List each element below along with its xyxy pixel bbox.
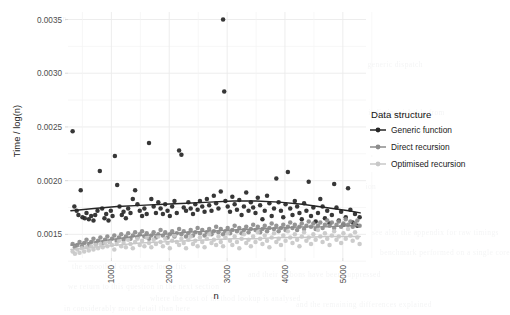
data-point: [225, 204, 230, 209]
data-point: [110, 214, 115, 219]
data-point: [142, 206, 147, 211]
data-point: [91, 218, 96, 223]
data-point: [138, 208, 143, 213]
data-point: [325, 208, 330, 213]
legend-key-point: [376, 145, 381, 150]
data-point: [202, 245, 207, 250]
data-point: [128, 211, 133, 216]
data-point: [212, 193, 217, 198]
data-point: [221, 17, 226, 22]
y-tick-label: 0.0025: [37, 123, 62, 132]
data-point: [135, 236, 140, 241]
data-point: [330, 213, 335, 218]
data-point: [251, 222, 256, 227]
data-point: [281, 215, 286, 220]
data-point: [91, 236, 96, 241]
x-tick-label: 5000: [339, 265, 348, 284]
data-point: [256, 196, 261, 201]
legend-key-point: [376, 128, 381, 133]
y-tick-label: 0.0015: [37, 230, 62, 239]
data-point: [293, 199, 298, 204]
data-point: [348, 219, 353, 224]
data-point: [78, 188, 83, 193]
data-point: [151, 230, 156, 235]
data-point: [306, 219, 311, 224]
data-point: [144, 235, 149, 240]
data-point: [262, 233, 267, 238]
data-point: [177, 227, 182, 232]
data-point: [219, 189, 224, 194]
data-point: [219, 240, 224, 245]
data-point: [158, 228, 163, 233]
data-point: [209, 208, 214, 213]
data-point: [309, 242, 314, 247]
data-point: [262, 208, 267, 213]
data-point: [188, 234, 193, 239]
data-point: [140, 229, 145, 234]
data-point: [286, 229, 291, 234]
data-point: [177, 243, 182, 248]
data-point: [195, 244, 200, 249]
data-point: [242, 232, 247, 237]
data-point: [115, 183, 120, 188]
data-point: [165, 208, 170, 213]
y-tick-label: 0.0030: [37, 69, 62, 78]
legend-key-point: [376, 162, 381, 167]
data-point: [84, 211, 89, 216]
legend-item-2[interactable]: Optimised recursion: [369, 157, 466, 172]
data-point: [195, 207, 200, 212]
data-point: [279, 208, 284, 213]
data-point: [95, 208, 100, 213]
data-point: [232, 224, 237, 229]
y-tick-label: 0.0035: [37, 16, 62, 25]
data-point: [121, 210, 126, 215]
data-point: [357, 242, 362, 247]
data-point: [230, 195, 235, 200]
data-point: [313, 237, 318, 242]
data-point: [344, 217, 349, 222]
data-point: [325, 218, 330, 223]
data-point: [158, 206, 163, 211]
data-point: [346, 227, 351, 232]
legend-item-label: Optimised recursion: [391, 159, 466, 169]
data-point: [104, 212, 109, 217]
data-point: [161, 244, 166, 249]
data-point: [221, 244, 226, 249]
data-point: [232, 202, 237, 207]
data-point: [318, 220, 323, 225]
y-tick-label: 0.0020: [37, 177, 62, 186]
data-point: [339, 241, 344, 246]
data-point: [105, 234, 110, 239]
data-point: [142, 244, 147, 249]
data-point: [290, 241, 295, 246]
data-point: [112, 233, 117, 238]
legend-items: Generic functionDirect recursionOptimise…: [369, 123, 466, 172]
data-point: [309, 214, 314, 219]
data-point: [191, 212, 196, 217]
data-point: [337, 219, 342, 224]
data-point: [126, 231, 131, 236]
data-point: [198, 235, 203, 240]
data-point: [207, 203, 212, 208]
data-point: [225, 226, 230, 231]
data-point: [293, 232, 298, 237]
data-point: [300, 217, 305, 222]
data-point: [98, 169, 103, 174]
data-point: [205, 197, 210, 202]
data-point: [112, 247, 117, 252]
data-point: [332, 229, 337, 234]
data-point: [267, 245, 272, 250]
data-point: [260, 242, 265, 247]
data-point: [106, 218, 111, 223]
data-point: [304, 208, 309, 213]
data-point: [237, 246, 242, 251]
data-point: [102, 216, 107, 221]
legend-item-1[interactable]: Direct recursion: [369, 140, 450, 155]
data-point: [253, 240, 257, 245]
x-tick-label: 1000: [107, 265, 116, 284]
data-point: [109, 208, 114, 213]
data-point: [242, 204, 247, 209]
legend-item-0[interactable]: Generic function: [369, 123, 452, 138]
